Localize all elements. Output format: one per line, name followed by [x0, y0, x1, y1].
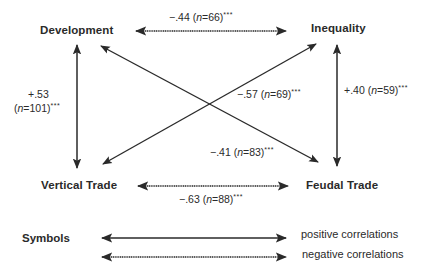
significance-stars: ***: [51, 102, 61, 109]
node-inequality: Inequality: [311, 22, 366, 34]
label-inequality-vertical-trade: −.57 (n=69)***: [237, 88, 301, 100]
node-feudal-trade: Feudal Trade: [306, 179, 378, 191]
r-value: −.57: [237, 88, 258, 100]
n-value: =88): [212, 193, 233, 205]
n-value: =66): [202, 11, 223, 23]
n-value: =101): [23, 102, 50, 114]
r-value: −.44: [169, 11, 190, 23]
label-development-vertical-trade-n: (n=101)***: [14, 102, 60, 114]
correlation-diagram: Development Inequality Vertical Trade Fe…: [0, 0, 438, 278]
label-vertical-trade-feudal-trade: −.63 (n=88)***: [179, 193, 243, 205]
significance-stars: ***: [223, 11, 233, 18]
n-value: =59): [377, 84, 398, 96]
n-value: =69): [270, 88, 291, 100]
r-value: −.63: [179, 193, 200, 205]
node-development: Development: [40, 24, 113, 36]
legend-positive-label: positive correlations: [301, 228, 398, 240]
legend-title: Symbols: [22, 232, 70, 244]
significance-stars: ***: [398, 84, 408, 91]
label-development-vertical-trade-r: +.53: [28, 88, 49, 100]
label-development-feudal-trade: −.41 (n=83)***: [210, 146, 274, 158]
label-development-inequality: −.44 (n=66)***: [169, 11, 233, 23]
legend-negative-label: negative correlations: [302, 248, 404, 260]
r-value: −.41: [210, 146, 231, 158]
node-vertical-trade: Vertical Trade: [41, 179, 117, 191]
n-value: =83): [243, 146, 264, 158]
significance-stars: ***: [233, 193, 243, 200]
significance-stars: ***: [264, 146, 274, 153]
significance-stars: ***: [291, 88, 301, 95]
label-inequality-feudal-trade: +.40 (n=59)***: [344, 84, 408, 96]
r-value: +.40: [344, 84, 365, 96]
